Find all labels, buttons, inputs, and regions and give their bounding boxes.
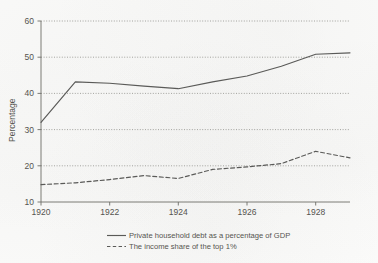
y-tick-label-40: 40: [25, 88, 35, 98]
x-tick-label-1922: 1922: [100, 207, 119, 217]
y-axis-title: Percentage: [7, 98, 17, 142]
series-line-top-1-percent-income-share: [41, 151, 350, 184]
x-tick-label-1924: 1924: [169, 207, 188, 217]
chart-figure: 60 50 40 30 20 10 Percentage 1920 1922 1…: [0, 0, 378, 263]
line-chart: 60 50 40 30 20 10 Percentage 1920 1922 1…: [0, 0, 378, 263]
series-line-private-household-debt: [41, 53, 350, 123]
y-tick-label-10: 10: [25, 197, 35, 207]
y-tick-label-30: 30: [25, 125, 35, 135]
x-tick-label-1928: 1928: [306, 207, 325, 217]
x-tick-label-1926: 1926: [238, 207, 257, 217]
gridlines: [41, 21, 350, 166]
plot-area: [41, 21, 350, 202]
y-tick-label-60: 60: [25, 16, 35, 26]
y-axis-ticks: [38, 21, 42, 202]
x-tick-label-1920: 1920: [32, 207, 51, 217]
legend-label-private-household-debt: Private household debt as a percentage o…: [129, 231, 290, 240]
y-tick-label-20: 20: [25, 161, 35, 171]
y-tick-label-50: 50: [25, 52, 35, 62]
legend-label-top-1-percent-income-share: The income share of the top 1%: [129, 242, 237, 251]
x-axis-ticks: [41, 202, 316, 206]
chart-legend: Private household debt as a percentage o…: [107, 231, 290, 251]
